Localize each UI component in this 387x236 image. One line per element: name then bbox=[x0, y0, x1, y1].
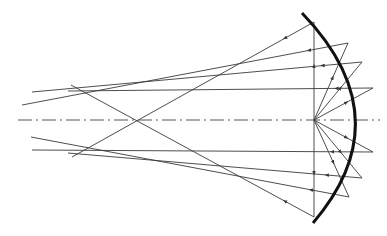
optics-diagram bbox=[0, 0, 387, 236]
ray-lower-1 bbox=[31, 120, 349, 197]
ray-diagram-canvas bbox=[0, 0, 387, 236]
ray-upper-1 bbox=[22, 43, 348, 120]
